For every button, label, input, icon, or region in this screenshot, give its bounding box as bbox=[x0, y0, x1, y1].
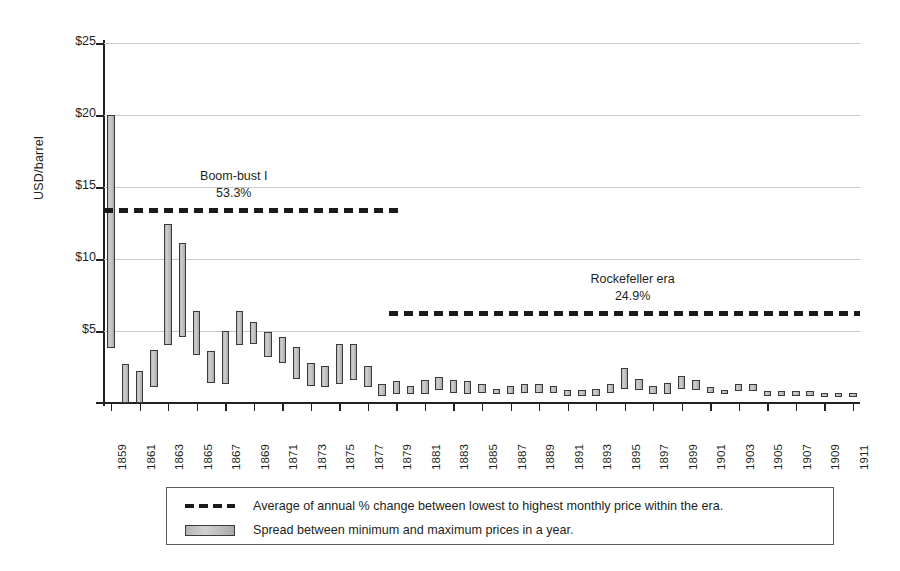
price-spread-bar bbox=[350, 344, 357, 380]
price-spread-bar bbox=[778, 391, 785, 395]
x-axis-tick bbox=[796, 403, 797, 411]
x-axis-tick-label: 1879 bbox=[401, 444, 413, 470]
y-axis-tick-label: $25 bbox=[44, 34, 96, 48]
x-axis-tick-label: 1861 bbox=[145, 444, 157, 470]
chart-legend: Average of annual % change between lowes… bbox=[166, 487, 834, 545]
price-spread-bar bbox=[207, 351, 214, 383]
x-axis-tick-label: 1903 bbox=[744, 444, 756, 470]
price-spread-bar bbox=[464, 381, 471, 394]
price-spread-bar bbox=[164, 224, 171, 345]
price-spread-bar bbox=[378, 384, 385, 396]
x-axis-tick-label: 1871 bbox=[287, 444, 299, 470]
x-axis-tick bbox=[254, 403, 255, 411]
x-axis-tick-label: 1893 bbox=[601, 444, 613, 470]
x-axis-tick bbox=[596, 403, 597, 411]
price-spread-bar bbox=[150, 350, 157, 387]
x-axis-tick bbox=[168, 403, 169, 411]
x-axis-tick bbox=[282, 403, 283, 411]
x-axis-tick bbox=[653, 403, 654, 411]
price-spread-bar bbox=[279, 337, 286, 363]
price-spread-bar bbox=[179, 243, 186, 337]
price-spread-bar bbox=[792, 391, 799, 395]
x-axis-tick-label: 1905 bbox=[772, 444, 784, 470]
price-spread-bar bbox=[821, 393, 828, 397]
price-spread-bar bbox=[592, 389, 599, 396]
price-spread-bar bbox=[136, 371, 143, 403]
price-spread-bar bbox=[721, 390, 728, 394]
x-axis-tick bbox=[225, 403, 226, 411]
price-spread-bar bbox=[564, 390, 571, 396]
x-axis-tick bbox=[453, 403, 454, 411]
x-axis-tick-label: 1885 bbox=[487, 444, 499, 470]
x-axis-tick bbox=[396, 403, 397, 411]
y-axis-tick-label: $10 bbox=[44, 250, 96, 264]
gridline bbox=[104, 259, 860, 260]
x-axis-tick bbox=[625, 403, 626, 411]
price-spread-bar bbox=[336, 344, 343, 384]
x-axis-tick-label: 1863 bbox=[173, 444, 185, 470]
price-spread-bar bbox=[321, 366, 328, 388]
legend-label-average-line: Average of annual % change between lowes… bbox=[253, 499, 723, 513]
x-axis-tick-label: 1881 bbox=[430, 444, 442, 470]
price-spread-bar bbox=[421, 380, 428, 394]
price-spread-bar bbox=[236, 311, 243, 346]
gridline bbox=[104, 115, 860, 116]
price-spread-bar bbox=[393, 381, 400, 394]
x-axis-tick-label: 1869 bbox=[259, 444, 271, 470]
price-spread-bar bbox=[493, 389, 500, 395]
price-spread-bar bbox=[678, 376, 685, 389]
price-spread-bar bbox=[621, 368, 628, 388]
x-axis-tick bbox=[368, 403, 369, 411]
price-spread-bar bbox=[521, 384, 528, 393]
price-spread-bar bbox=[450, 380, 457, 393]
dashed-line-key-icon bbox=[167, 504, 253, 509]
price-spread-bar bbox=[835, 393, 842, 397]
y-axis-title: USD/barrel bbox=[18, 0, 32, 140]
x-axis-tick bbox=[710, 403, 711, 411]
x-axis-tick bbox=[539, 403, 540, 411]
x-axis-tick-label: 1911 bbox=[858, 445, 870, 470]
price-spread-bar bbox=[193, 311, 200, 356]
price-spread-bar bbox=[635, 379, 642, 391]
plot-area bbox=[104, 43, 860, 403]
x-axis-tick-label: 1859 bbox=[116, 444, 128, 470]
x-axis-tick-label: 1899 bbox=[687, 444, 699, 470]
x-axis-tick-label: 1909 bbox=[829, 444, 841, 470]
x-axis-tick-label: 1873 bbox=[316, 444, 328, 470]
x-axis-tick-label: 1897 bbox=[658, 444, 670, 470]
price-spread-bar bbox=[806, 391, 813, 395]
price-spread-bar bbox=[364, 366, 371, 388]
era-name-label: Boom-bust I bbox=[139, 168, 329, 185]
x-axis-tick-label: 1877 bbox=[373, 444, 385, 470]
era-average-line-rockefeller-era bbox=[389, 311, 860, 316]
x-axis-tick-label: 1907 bbox=[801, 444, 813, 470]
x-axis-tick-label: 1891 bbox=[573, 444, 585, 470]
price-spread-bar bbox=[692, 380, 699, 390]
y-axis-tick-label: $20 bbox=[44, 106, 96, 120]
x-axis-tick bbox=[767, 403, 768, 411]
price-spread-bar bbox=[507, 386, 514, 395]
x-axis-tick-label: 1875 bbox=[344, 444, 356, 470]
price-spread-bar bbox=[664, 383, 671, 395]
x-axis-tick bbox=[824, 403, 825, 411]
x-axis-tick-label: 1883 bbox=[458, 444, 470, 470]
x-axis-tick-label: 1901 bbox=[715, 444, 727, 470]
x-axis-tick bbox=[511, 403, 512, 411]
price-spread-bar bbox=[122, 364, 129, 403]
x-axis-tick bbox=[140, 403, 141, 411]
x-axis-tick bbox=[853, 403, 854, 411]
era-percent-label: 24.9% bbox=[538, 288, 728, 305]
price-spread-bar bbox=[435, 377, 442, 390]
price-spread-bar bbox=[250, 322, 257, 344]
price-spread-bar bbox=[293, 347, 300, 379]
era-name-label: Rockefeller era bbox=[538, 271, 728, 288]
legend-item-spread-bar: Spread between minimum and maximum price… bbox=[167, 518, 833, 542]
x-axis-tick-label: 1895 bbox=[630, 444, 642, 470]
y-axis-tick-label: $15 bbox=[44, 178, 96, 192]
x-axis-tick bbox=[311, 403, 312, 411]
price-spread-bar bbox=[264, 332, 271, 356]
legend-label-spread-bar: Spread between minimum and maximum price… bbox=[253, 523, 574, 537]
price-spread-bar bbox=[735, 384, 742, 391]
price-spread-bar bbox=[407, 386, 414, 395]
price-spread-bar bbox=[535, 384, 542, 393]
